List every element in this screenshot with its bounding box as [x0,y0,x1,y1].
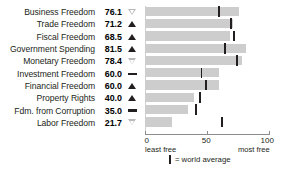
category-name: Investment Freedom [17,69,95,79]
bar-row [145,105,284,114]
axis-end-label-least-free: least free [145,145,176,154]
trend-down-icon [128,9,136,15]
bar [145,19,233,28]
world-average-tick [233,31,235,42]
bar-row [145,44,284,53]
category-name: Property Rights [37,93,95,103]
category-row: Fiscal Freedom68.5 [0,31,139,43]
category-row: Financial Freedom60.0 [0,80,139,92]
legend-label: = world average [175,155,231,164]
trend-marker-cell [125,95,139,101]
category-row: Business Freedom76.1 [0,6,139,18]
bar-row [145,7,284,16]
world-average-tick [205,80,207,91]
category-name: Fdm. from Corruption [14,106,95,116]
trend-marker-cell [125,21,139,27]
category-name: Trade Freedom [37,19,95,29]
category-value: 76.1 [99,7,122,17]
category-value: 40.0 [99,93,122,103]
trend-flat-icon [128,73,137,75]
world-average-tick [221,117,223,128]
world-average-tick [230,18,232,29]
x-axis-tick-label: 50 [202,136,211,145]
bar-row [145,56,284,65]
freedom-index-bar-chart: Business Freedom76.1Trade Freedom71.2Fis… [0,0,284,170]
trend-marker-cell [125,109,139,111]
bar [145,31,230,40]
bar [145,68,219,77]
bar-row [145,117,284,126]
trend-flat-icon [128,109,137,111]
bar [145,44,246,53]
trend-marker-cell [125,120,139,126]
world-average-tick [218,6,220,17]
bar [145,105,188,114]
bar-row [145,68,284,77]
category-row: Labor Freedom21.7 [0,117,139,129]
bar [145,80,219,89]
category-value: 81.5 [99,44,122,54]
category-name: Monetary Freedom [23,56,95,66]
trend-marker-cell [125,73,139,75]
category-row: Property Rights40.0 [0,92,139,104]
world-average-tick [224,43,226,54]
plot-area [145,6,284,133]
world-average-tick [201,68,203,79]
trend-marker-cell [125,83,139,89]
category-name: Government Spending [10,44,95,54]
trend-up-icon [128,46,136,52]
x-axis-tick [269,131,270,135]
category-value: 60.0 [99,81,122,91]
bar-row [145,80,284,89]
x-axis-tick-label: 0 [145,136,149,145]
category-value: 21.7 [99,118,122,128]
world-average-tick [236,55,238,66]
trend-marker-cell [125,46,139,52]
category-row: Monetary Freedom78.4 [0,55,139,67]
category-value: 60.0 [99,69,122,79]
trend-marker-cell [125,58,139,64]
category-name: Labor Freedom [37,118,95,128]
trend-down-icon [128,120,136,126]
bar [145,93,194,102]
category-row: Investment Freedom60.0 [0,67,139,79]
category-row: Trade Freedom71.2 [0,18,139,30]
category-name: Fiscal Freedom [36,32,95,42]
axis-end-label-most-free: most free [238,145,270,154]
trend-marker-cell [125,34,139,40]
bar [145,56,242,65]
x-axis-tick-label: 100 [261,136,274,145]
category-value: 71.2 [99,19,122,29]
trend-up-icon [128,83,136,89]
legend: = world average [169,155,231,164]
category-value: 78.4 [99,56,122,66]
category-value: 68.5 [99,32,122,42]
category-label-column: Business Freedom76.1Trade Freedom71.2Fis… [0,6,139,129]
world-average-tick [199,92,201,103]
x-axis-tick [145,131,146,135]
x-axis-tick [207,131,208,135]
bar-row [145,19,284,28]
category-row: Government Spending81.5 [0,43,139,55]
legend-world-average-tick-icon [169,155,171,164]
category-name: Business Freedom [24,7,95,17]
trend-up-icon [128,95,136,101]
trend-up-icon [128,21,136,27]
trend-up-icon [128,34,136,40]
trend-marker-cell [125,9,139,15]
category-value: 35.0 [99,106,122,116]
category-name: Financial Freedom [25,81,95,91]
bar [145,7,239,16]
bar-row [145,93,284,102]
trend-down-icon [128,58,136,64]
bar-row [145,31,284,40]
bar [145,117,172,126]
world-average-tick [195,104,197,115]
category-row: Fdm. from Corruption35.0 [0,104,139,116]
